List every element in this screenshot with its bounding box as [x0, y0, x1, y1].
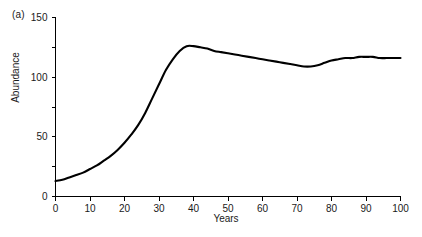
y-tick-label: 0 — [42, 191, 48, 202]
x-tick-label: 20 — [119, 203, 131, 214]
x-tick-label: 70 — [291, 203, 303, 214]
x-tick-label: 0 — [53, 203, 59, 214]
tick-mark-group — [52, 18, 401, 201]
x-tick-label: 90 — [360, 203, 372, 214]
abundance-curve — [56, 46, 401, 181]
x-tick-label: 40 — [188, 203, 200, 214]
x-tick-label: 10 — [84, 203, 96, 214]
y-tick-label-group: 050100150 — [31, 12, 48, 202]
y-tick-label: 50 — [36, 131, 48, 142]
x-tick-label: 50 — [222, 203, 234, 214]
x-tick-label-group: 0102030405060708090100 — [53, 203, 410, 214]
x-tick-label: 30 — [153, 203, 165, 214]
y-tick-label: 150 — [31, 12, 48, 23]
figure-panel: (a) Abundance Years 050100150 0102030405… — [0, 0, 422, 237]
x-tick-label: 100 — [392, 203, 409, 214]
y-tick-label: 100 — [31, 72, 48, 83]
axis-lines — [56, 18, 401, 197]
line-chart: 050100150 0102030405060708090100 — [0, 0, 422, 237]
x-tick-label: 60 — [257, 203, 269, 214]
x-tick-label: 80 — [326, 203, 338, 214]
